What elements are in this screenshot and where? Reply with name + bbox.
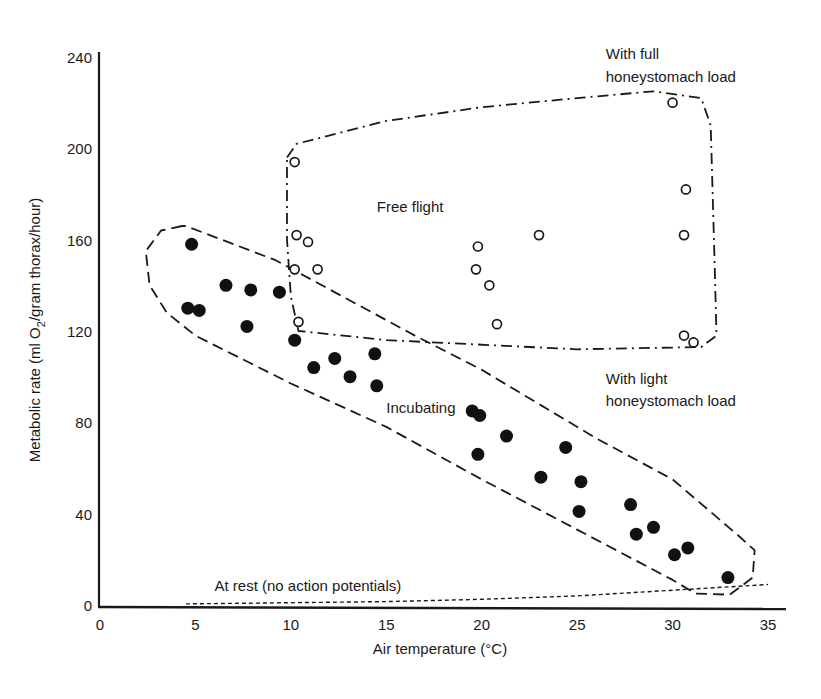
incubating-point [573, 505, 586, 518]
incubating-point [681, 541, 694, 554]
annotation-label: At rest (no action potentials) [215, 577, 402, 594]
incubating-point [240, 320, 253, 333]
incubating-point [721, 571, 734, 584]
incubating-point [647, 521, 660, 534]
metabolic-rate-chart: 04080120160200240 05101520253035 Air tem… [0, 0, 821, 699]
incubating-point [500, 430, 513, 443]
annotation-label: honeystomach load [606, 392, 736, 409]
annotation-label: honeystomach load [606, 68, 736, 85]
x-tick-label: 35 [760, 616, 777, 633]
free-flight-point [473, 242, 482, 251]
y-tick-label: 240 [67, 49, 92, 66]
y-tick-label: 120 [67, 323, 92, 340]
free-flight-point [290, 265, 299, 274]
incubating-point [559, 441, 572, 454]
free-flight-point [681, 185, 690, 194]
incubating-point [273, 286, 286, 299]
incubating-point [668, 548, 681, 561]
free-flight-point [668, 98, 677, 107]
free-flight-point [290, 158, 299, 167]
x-tick-label: 15 [378, 616, 395, 633]
x-tick-labels: 05101520253035 [96, 616, 777, 633]
annotation-label: With light [606, 370, 669, 387]
x-axis-title: Air temperature (°C) [373, 640, 507, 657]
incubating-point [368, 347, 381, 360]
y-tick-label: 0 [84, 597, 92, 614]
y-tick-label: 40 [75, 506, 92, 523]
region-outlines [146, 91, 755, 594]
incubating-point [344, 370, 357, 383]
free-flight-point [680, 231, 689, 240]
annotations: Free flightIncubatingAt rest (no action … [215, 45, 736, 594]
incubating-point [288, 334, 301, 347]
free-flight-point [534, 231, 543, 240]
annotation-label: Free flight [377, 198, 445, 215]
x-tick-label: 20 [473, 616, 490, 633]
free-flight-point [485, 281, 494, 290]
incubating-point [328, 352, 341, 365]
y-tick-label: 160 [67, 232, 92, 249]
free-flight-envelopeoutline [287, 91, 717, 349]
free-flight-point [680, 331, 689, 340]
x-tick-label: 30 [664, 616, 681, 633]
incubating-point [534, 471, 547, 484]
free-flight-point [471, 265, 480, 274]
y-tick-label: 200 [67, 140, 92, 157]
free-flight-point [689, 338, 698, 347]
incubating-point [307, 361, 320, 374]
data-points [181, 98, 734, 584]
x-axis-line [98, 607, 786, 609]
annotation-label: Incubating [386, 399, 455, 416]
incubating-point [471, 448, 484, 461]
incubating-point [574, 475, 587, 488]
free-flight-point [313, 265, 322, 274]
annotation-label: With full [606, 45, 659, 62]
incubating-point [630, 528, 643, 541]
x-tick-label: 10 [283, 616, 300, 633]
x-tick-label: 0 [96, 616, 104, 633]
incubating-point [370, 379, 383, 392]
x-tick-label: 5 [191, 616, 199, 633]
incubating-point [181, 302, 194, 315]
incubating-point [219, 279, 232, 292]
incubating-point [244, 283, 257, 296]
y-tick-label: 80 [75, 414, 92, 431]
free-flight-point [294, 317, 303, 326]
incubating-point [193, 304, 206, 317]
y-tick-labels: 04080120160200240 [67, 49, 92, 614]
incubating-point [473, 409, 486, 422]
y-axis-title: Metabolic rate (ml O2/gram thorax/hour) [26, 198, 47, 463]
free-flight-point [492, 320, 501, 329]
incubating-point [624, 498, 637, 511]
free-flight-point [304, 237, 313, 246]
x-tick-label: 25 [569, 616, 586, 633]
free-flight-point [292, 231, 301, 240]
incubating-point [185, 238, 198, 251]
